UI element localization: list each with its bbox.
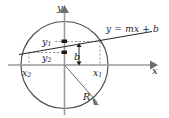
- point-y2-marker: [62, 51, 68, 55]
- y-axis-label: y: [57, 3, 63, 13]
- y1-label: y1: [42, 37, 51, 48]
- x1-label-subscript: 1: [98, 71, 102, 78]
- x-axis-label: x: [152, 66, 158, 76]
- circle-secant-line-diagram: y x y = mx + b y1 y2 x1 x2 b R: [0, 0, 169, 118]
- line-equation-label: y = mx + b: [106, 25, 159, 34]
- x2-label-subscript: 2: [27, 71, 31, 78]
- point-y1-marker: [62, 40, 68, 44]
- radius-label: R: [83, 92, 90, 102]
- secant-line: [19, 32, 152, 55]
- x1-label: x1: [93, 68, 102, 79]
- b-intercept-label: b: [74, 52, 80, 62]
- x2-label: x2: [22, 68, 31, 79]
- y2-label-subscript: 2: [47, 56, 51, 63]
- y1-label-subscript: 1: [47, 40, 51, 47]
- y2-label: y2: [42, 53, 51, 64]
